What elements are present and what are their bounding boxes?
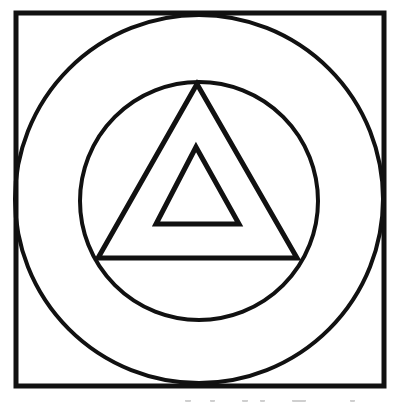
caption-glyph-fragment [350, 400, 355, 402]
caption-glyph-fragment [210, 400, 215, 402]
clipped-caption-fragment [0, 400, 397, 409]
outer-circle [15, 15, 383, 383]
geometric-diagram [0, 0, 397, 409]
outer-triangle [98, 84, 297, 258]
inner-circle [80, 82, 318, 320]
inner-triangle [156, 147, 239, 224]
caption-glyph-fragment [185, 400, 191, 402]
caption-glyph-fragment [242, 400, 248, 402]
caption-glyph-fragment [292, 400, 306, 402]
caption-glyph-fragment [260, 400, 265, 402]
